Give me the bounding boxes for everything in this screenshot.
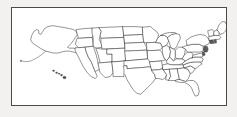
hawaii-inset-group (53, 70, 67, 79)
island-maui[interactable] (60, 74, 62, 76)
map-frame (11, 7, 227, 106)
island-kauai[interactable] (53, 70, 55, 72)
us-map-svg[interactable] (12, 8, 226, 105)
state-pennsylvania[interactable] (182, 44, 203, 52)
state-nebraska[interactable] (125, 42, 147, 51)
alaska-inset-group (20, 26, 83, 62)
aleutian-island-dot (20, 60, 21, 61)
state-oregon[interactable] (75, 37, 93, 47)
state-iowa[interactable] (147, 42, 163, 50)
state-washington[interactable] (76, 28, 93, 38)
us-map-figure (0, 0, 237, 117)
state-vermont[interactable] (208, 30, 214, 37)
continental-us-group (75, 22, 226, 96)
state-montana[interactable] (99, 27, 124, 39)
state-new-jersey[interactable] (203, 46, 208, 52)
island-molokai[interactable] (58, 73, 60, 74)
state-rhode-island[interactable] (214, 39, 216, 43)
state-florida[interactable] (175, 80, 199, 97)
state-arkansas[interactable] (150, 61, 163, 70)
state-north-dakota[interactable] (123, 27, 143, 36)
state-delaware[interactable] (202, 52, 205, 56)
state-new-york[interactable] (186, 34, 210, 46)
island-oahu[interactable] (56, 72, 58, 74)
state-arizona[interactable] (98, 62, 113, 78)
state-south-dakota[interactable] (124, 34, 144, 43)
state-maryland[interactable] (192, 53, 203, 58)
island-hawaii[interactable] (63, 76, 66, 79)
aleutian-islands-chain (22, 51, 46, 62)
state-wyoming[interactable] (101, 37, 125, 49)
state-texas[interactable] (124, 66, 156, 94)
state-minnesota[interactable] (143, 27, 159, 43)
